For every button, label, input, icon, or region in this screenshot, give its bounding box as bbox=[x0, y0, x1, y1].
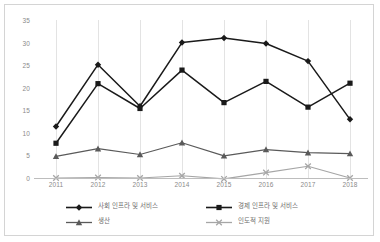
legend-item[interactable]: 경제 인프라 및 서비스 bbox=[205, 197, 345, 212]
legend-label: 경제 인프라 및 서비스 bbox=[238, 200, 298, 210]
data-point-marker bbox=[95, 81, 100, 86]
series-1 bbox=[53, 68, 352, 146]
legend-item[interactable]: 사회 인프라 및 서비스 bbox=[65, 197, 205, 212]
y-axis-tick-label: 10 bbox=[23, 129, 30, 136]
data-point-marker bbox=[347, 81, 352, 86]
data-point-marker bbox=[53, 141, 58, 146]
legend-label: 생산 bbox=[98, 215, 110, 225]
legend-triangle-icon bbox=[65, 214, 93, 225]
data-point-marker bbox=[263, 79, 268, 84]
data-point-marker bbox=[179, 140, 185, 146]
x-axis-tick-label: 2011 bbox=[49, 181, 63, 188]
series-2 bbox=[53, 140, 353, 159]
y-axis-tick-label: 0 bbox=[26, 175, 30, 182]
chart-frame: 05101520253035 2011201220132014201520162… bbox=[4, 4, 374, 236]
x-axis-tick-label: 2016 bbox=[259, 181, 274, 188]
legend-diamond-icon bbox=[65, 199, 93, 210]
legend-item[interactable]: 생산 bbox=[65, 212, 205, 227]
legend-item[interactable]: 인도적 지원 bbox=[205, 212, 345, 227]
y-axis-tick-label: 5 bbox=[26, 152, 30, 159]
series-lines bbox=[34, 20, 368, 178]
legend-square-icon bbox=[205, 199, 233, 210]
data-point-marker bbox=[263, 40, 269, 46]
legend-x-icon bbox=[205, 214, 233, 225]
x-axis-tick-label: 2012 bbox=[91, 181, 106, 188]
legend-label: 인도적 지원 bbox=[238, 215, 270, 225]
y-axis-tick-label: 25 bbox=[23, 62, 30, 69]
x-axis-baseline bbox=[34, 178, 368, 179]
y-axis-tick-label: 15 bbox=[23, 107, 30, 114]
data-point-marker bbox=[221, 35, 227, 41]
y-axis-tick-label: 20 bbox=[23, 84, 30, 91]
y-axis-tick-label: 30 bbox=[23, 39, 30, 46]
legend-label: 사회 인프라 및 서비스 bbox=[98, 200, 158, 210]
data-point-marker bbox=[305, 105, 310, 110]
data-point-marker bbox=[179, 68, 184, 73]
x-axis-tick-label: 2013 bbox=[133, 181, 148, 188]
y-axis-tick-label: 35 bbox=[23, 17, 30, 24]
x-axis-tick-label: 2018 bbox=[343, 181, 358, 188]
x-axis-tick-label: 2017 bbox=[301, 181, 316, 188]
chart-legend: 사회 인프라 및 서비스경제 인프라 및 서비스생산인도적 지원 bbox=[65, 197, 345, 227]
data-point-marker bbox=[221, 100, 226, 105]
x-axis-tick-label: 2015 bbox=[217, 181, 232, 188]
data-point-marker bbox=[137, 106, 142, 111]
plot-area: 05101520253035 bbox=[34, 20, 368, 178]
x-axis-tick-label: 2014 bbox=[175, 181, 190, 188]
